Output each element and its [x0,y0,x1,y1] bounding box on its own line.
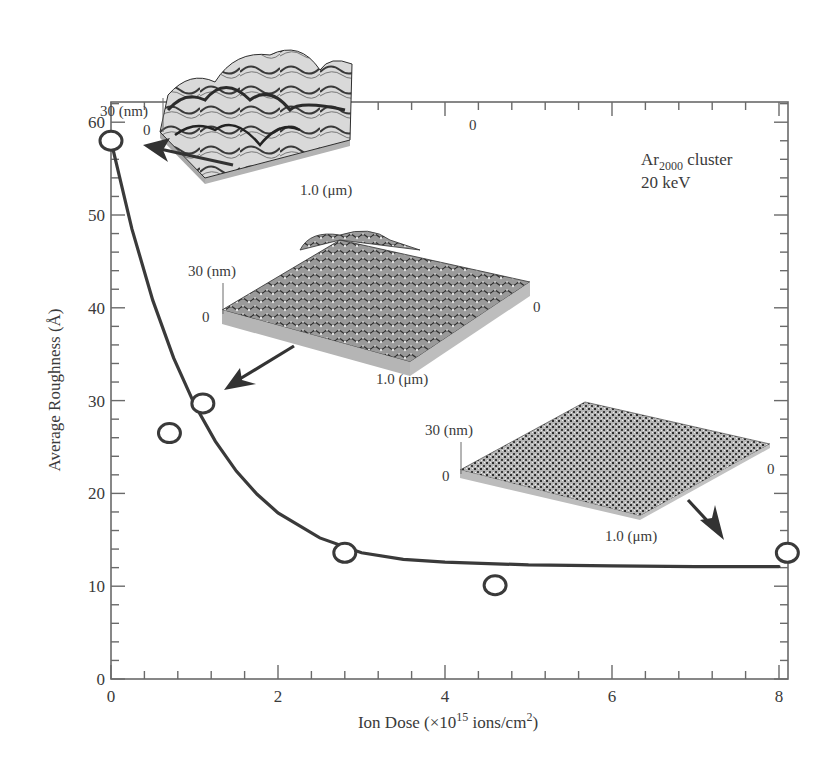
y-tick-label: 20 [88,484,105,503]
svg-text:Ar2000 cluster: Ar2000 cluster [641,150,733,173]
svg-text:30 (nm): 30 (nm) [100,103,148,120]
data-point-marker [192,394,214,413]
x-tick-label: 4 [441,687,450,706]
y-tick-label: 0 [97,670,106,689]
svg-text:0: 0 [533,299,541,315]
data-point-marker [484,576,506,595]
svg-text:30 (nm): 30 (nm) [425,422,473,439]
y-tick-label: 10 [88,577,105,596]
y-tick-label: 30 [88,392,105,411]
x-axis-tick-labels: 02468 [107,687,784,706]
data-markers [100,131,798,595]
svg-text:20 keV: 20 keV [641,173,691,192]
svg-text:1.0 (μm): 1.0 (μm) [300,182,352,199]
svg-text:0: 0 [202,309,210,325]
data-point-marker [776,543,798,562]
data-point-marker [100,131,122,150]
x-tick-label: 6 [608,687,617,706]
svg-text:0: 0 [469,117,477,133]
svg-text:1.0 (μm): 1.0 (μm) [605,528,657,545]
svg-text:0: 0 [143,122,151,138]
y-axis-title: Average Roughness (Å) [45,308,64,471]
x-axis-title: Ion Dose (×1015 ions/cm2) [358,710,538,732]
data-point-marker [334,543,356,562]
y-axis-tick-labels: 0102030405060 [88,113,105,689]
afm-inset-dose-8: 30 (nm) 0 0 1.0 (μm) [425,402,775,545]
roughness-vs-dose-chart: 0102030405060 02468 Average Roughness (Å… [0,0,826,776]
svg-text:1.0 (μm): 1.0 (μm) [376,371,428,388]
fit-curve [111,141,779,567]
afm-inset-dose-1: 30 (nm) 0 0 1.0 (μm) [188,231,541,390]
svg-text:30 (nm): 30 (nm) [188,263,236,280]
x-tick-label: 2 [274,687,283,706]
x-tick-label: 0 [107,687,116,706]
x-tick-label: 8 [775,687,784,706]
y-tick-label: 40 [88,299,105,318]
condition-annotation: Ar2000 cluster 20 keV [641,150,733,192]
svg-text:0: 0 [767,461,775,477]
svg-text:0: 0 [442,468,450,484]
data-point-marker [158,424,180,443]
y-tick-label: 50 [88,206,105,225]
afm-inset-dose-0: 30 (nm) 0 0 1.0 (μm) [100,50,477,199]
